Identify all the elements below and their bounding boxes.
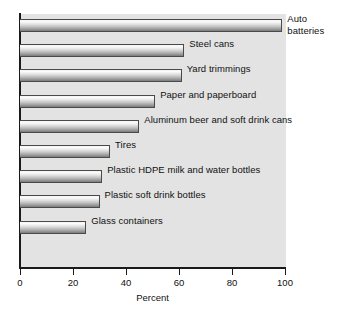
bar[interactable] bbox=[20, 95, 155, 108]
bar-category-label: Tires bbox=[115, 139, 136, 151]
bar[interactable] bbox=[20, 120, 139, 133]
bar-category-label: Glass containers bbox=[91, 215, 163, 227]
x-axis-tick-label: 100 bbox=[277, 277, 293, 288]
bar[interactable] bbox=[20, 69, 182, 82]
bar[interactable] bbox=[20, 195, 100, 208]
x-axis-line bbox=[19, 267, 286, 269]
bar-category-label: Steel cans bbox=[189, 38, 234, 50]
bar[interactable] bbox=[20, 221, 86, 234]
x-axis-tick-mark bbox=[20, 269, 21, 275]
x-axis-tick-label: 60 bbox=[174, 277, 185, 288]
bar[interactable] bbox=[20, 19, 282, 32]
bar-category-label: Yard trimmings bbox=[187, 63, 251, 75]
x-axis-tick-label: 80 bbox=[227, 277, 238, 288]
x-axis-tick-mark bbox=[285, 269, 286, 275]
x-axis-title: Percent bbox=[0, 292, 305, 303]
x-axis-tick-label: 20 bbox=[68, 277, 79, 288]
bar-category-label: Plastic soft drink bottles bbox=[105, 189, 206, 201]
bar-category-label: Aluminum beer and soft drink cans bbox=[144, 114, 292, 126]
x-axis-tick-label: 40 bbox=[121, 277, 132, 288]
x-axis-tick-mark bbox=[73, 269, 74, 275]
bar-chart-figure: Auto batteriesSteel cansYard trimmingsPa… bbox=[0, 0, 341, 310]
bar[interactable] bbox=[20, 170, 102, 183]
x-axis-tick-mark bbox=[232, 269, 233, 275]
bar[interactable] bbox=[20, 145, 110, 158]
bar-category-label: Plastic HDPE milk and water bottles bbox=[107, 164, 260, 176]
x-axis-tick-mark bbox=[179, 269, 180, 275]
x-axis-tick-mark bbox=[126, 269, 127, 275]
x-axis-tick-label: 0 bbox=[17, 277, 22, 288]
bar-category-label: Paper and paperboard bbox=[160, 89, 256, 101]
bar-category-label: Auto batteries bbox=[287, 13, 324, 36]
bar[interactable] bbox=[20, 44, 184, 57]
